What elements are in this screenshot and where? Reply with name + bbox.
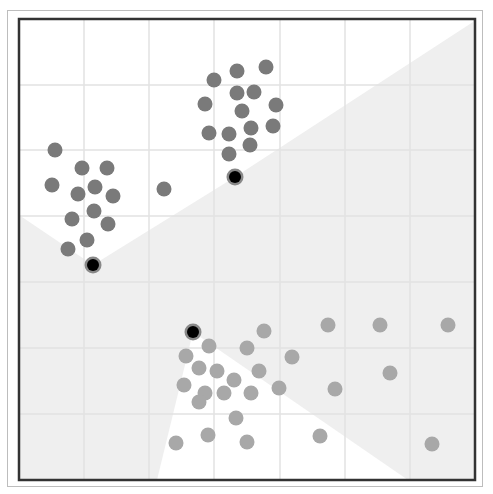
data-point-cluster-left bbox=[157, 182, 172, 197]
centroid-top bbox=[229, 171, 241, 183]
scatter-plot bbox=[0, 0, 493, 494]
data-point-cluster-top bbox=[202, 126, 217, 141]
centroid-bottom bbox=[187, 326, 199, 338]
data-point-cluster-bottom bbox=[257, 324, 272, 339]
data-point-cluster-bottom bbox=[201, 428, 216, 443]
data-point-cluster-bottom bbox=[179, 349, 194, 364]
data-point-cluster-top bbox=[269, 98, 284, 113]
data-point-cluster-bottom bbox=[177, 378, 192, 393]
data-point-cluster-bottom bbox=[313, 429, 328, 444]
data-point-cluster-bottom bbox=[192, 395, 207, 410]
data-point-cluster-bottom bbox=[210, 364, 225, 379]
data-point-cluster-bottom bbox=[192, 361, 207, 376]
data-point-cluster-left bbox=[71, 187, 86, 202]
data-point-cluster-left bbox=[65, 212, 80, 227]
data-point-cluster-top bbox=[235, 104, 250, 119]
data-point-cluster-bottom bbox=[240, 341, 255, 356]
data-point-cluster-left bbox=[87, 204, 102, 219]
data-point-cluster-top bbox=[244, 121, 259, 136]
data-point-cluster-top bbox=[247, 85, 262, 100]
data-point-cluster-bottom bbox=[272, 381, 287, 396]
data-point-cluster-bottom bbox=[285, 350, 300, 365]
data-point-cluster-left bbox=[101, 217, 116, 232]
data-point-cluster-left bbox=[45, 178, 60, 193]
data-point-cluster-top bbox=[243, 138, 258, 153]
data-point-cluster-top bbox=[222, 127, 237, 142]
data-point-cluster-bottom bbox=[425, 437, 440, 452]
data-point-cluster-left bbox=[48, 143, 63, 158]
data-point-cluster-top bbox=[259, 60, 274, 75]
data-point-cluster-bottom bbox=[240, 435, 255, 450]
data-point-cluster-left bbox=[100, 161, 115, 176]
data-point-cluster-left bbox=[88, 180, 103, 195]
data-point-cluster-bottom bbox=[321, 318, 336, 333]
data-point-cluster-left bbox=[75, 161, 90, 176]
data-point-cluster-top bbox=[198, 97, 213, 112]
data-point-cluster-left bbox=[80, 233, 95, 248]
data-point-cluster-top bbox=[222, 147, 237, 162]
data-point-cluster-bottom bbox=[217, 386, 232, 401]
data-point-cluster-top bbox=[207, 73, 222, 88]
data-point-cluster-top bbox=[230, 86, 245, 101]
data-point-cluster-left bbox=[106, 189, 121, 204]
data-point-cluster-bottom bbox=[383, 366, 398, 381]
data-point-cluster-top bbox=[266, 119, 281, 134]
centroid-left bbox=[87, 259, 99, 271]
data-point-cluster-bottom bbox=[252, 364, 267, 379]
data-point-cluster-left bbox=[61, 242, 76, 257]
data-point-cluster-bottom bbox=[441, 318, 456, 333]
data-point-cluster-bottom bbox=[169, 436, 184, 451]
data-point-cluster-bottom bbox=[328, 382, 343, 397]
data-point-cluster-bottom bbox=[373, 318, 388, 333]
data-point-cluster-bottom bbox=[202, 339, 217, 354]
data-point-cluster-top bbox=[230, 64, 245, 79]
data-point-cluster-bottom bbox=[227, 373, 242, 388]
data-point-cluster-bottom bbox=[229, 411, 244, 426]
data-point-cluster-bottom bbox=[244, 386, 259, 401]
